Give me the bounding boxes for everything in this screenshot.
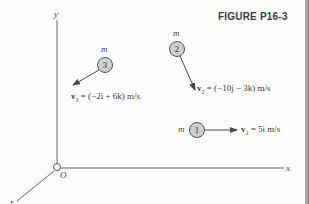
velocity-arrow-2	[180, 56, 195, 90]
z-axis	[17, 171, 54, 201]
particle-3-number: 3	[98, 58, 112, 72]
x-axis-label: x	[286, 164, 290, 173]
origin-label: O	[60, 171, 67, 180]
velocity-arrow-3	[73, 70, 99, 85]
particle-2-velocity-label: v2 = (−10j − 3k) m/s	[197, 84, 270, 95]
page-edge	[305, 0, 309, 204]
figure-p16-3: FIGURE P16-3 y x z O m 3 v3 = (−2i + 6k)…	[0, 0, 309, 204]
coordinate-diagram	[0, 0, 309, 204]
particle-2-mass-label: m	[173, 29, 180, 38]
particle-1-velocity-label: v1 = 5i m/s	[241, 125, 280, 136]
particle-3-velocity-label: v3 = (−2i + 6k) m/s	[71, 92, 140, 103]
y-axis-label: y	[54, 10, 58, 19]
particle-3-mass-label: m	[101, 45, 108, 54]
particle-1-mass-label: m	[178, 125, 185, 134]
velocity-expression: = (−2i + 6k) m/s	[79, 91, 140, 101]
particle-2-number: 2	[170, 42, 184, 56]
z-axis-label: z	[10, 198, 14, 204]
velocity-expression: = (−10j − 3k) m/s	[205, 83, 271, 93]
figure-caption: FIGURE P16-3	[218, 11, 288, 22]
particle-1-number: 1	[190, 123, 204, 137]
velocity-expression: = 5i m/s	[249, 124, 281, 134]
